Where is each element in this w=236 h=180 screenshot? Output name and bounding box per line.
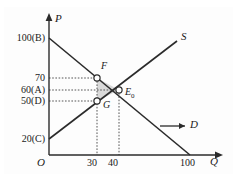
y-tick-label-100: 100(B) (0, 33, 45, 43)
y-tick-label-60: 60(A) (0, 85, 45, 95)
x-tick-label-40: 40 (108, 158, 118, 168)
supply-curve-label: S (181, 31, 187, 42)
x-tick-label-100: 100 (180, 158, 195, 168)
point-label-f: F (101, 61, 107, 71)
y-tick-label-50: 50(D) (0, 96, 45, 106)
point-label-e0-subscript: 0 (131, 92, 135, 100)
supply-demand-chart: P Q O 100(B) 70 60(A) 50(D) 20(C) 30 40 … (0, 0, 236, 180)
x-axis-label: Q (210, 156, 218, 167)
point-marker-g (94, 98, 100, 104)
y-axis-label: P (55, 13, 62, 24)
left-margin-band (0, 0, 4, 180)
point-marker-f (94, 75, 100, 81)
demand-curve-label: D (190, 119, 198, 130)
y-tick-label-70: 70 (0, 73, 45, 83)
x-tick-label-30: 30 (87, 158, 97, 168)
point-marker-e0 (116, 87, 122, 93)
right-margin-band (233, 0, 236, 180)
top-margin-band (0, 0, 236, 7)
point-label-e0: E0 (125, 87, 135, 100)
origin-label: O (37, 157, 45, 168)
demand-arrow-head (179, 123, 185, 129)
y-axis-arrow-head (46, 13, 53, 21)
demand-curve (49, 38, 190, 155)
y-tick-label-20: 20(C) (0, 134, 45, 144)
bottom-margin-band (0, 174, 236, 180)
point-label-g: G (103, 100, 110, 110)
